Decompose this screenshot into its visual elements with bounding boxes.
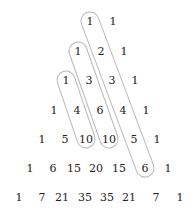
triangle-cell: 20 — [89, 163, 103, 174]
triangle-cell: 1 — [87, 16, 94, 27]
triangle-cell: 6 — [142, 163, 149, 174]
triangle-cell: 1 — [132, 75, 139, 86]
triangle-cell: 7 — [39, 192, 46, 203]
triangle-cell: 3 — [86, 75, 93, 86]
triangle-cell: 15 — [112, 163, 126, 174]
triangle-cell: 35 — [100, 192, 114, 203]
triangle-cell: 1 — [39, 134, 46, 145]
triangle-cell: 1 — [75, 46, 82, 57]
triangle-cell: 4 — [74, 105, 81, 116]
triangle-cell: 7 — [153, 192, 160, 203]
triangle-cell: 2 — [98, 46, 105, 57]
triangle-cell: 1 — [154, 134, 161, 145]
triangle-cell: 1 — [51, 105, 58, 116]
triangle-cell: 6 — [50, 163, 57, 174]
triangle-cell: 6 — [97, 105, 104, 116]
triangle-cell: 1 — [110, 16, 117, 27]
triangle-cell: 1 — [143, 105, 150, 116]
triangle-cell: 5 — [131, 134, 138, 145]
triangle-cell: 15 — [67, 163, 81, 174]
triangle-cell: 21 — [122, 192, 136, 203]
triangle-cell: 1 — [63, 75, 70, 86]
triangle-cell: 10 — [102, 134, 116, 145]
triangle-cell: 1 — [121, 46, 128, 57]
triangle-cell: 1 — [27, 163, 34, 174]
triangle-cell: 21 — [55, 192, 69, 203]
triangle-cell: 3 — [109, 75, 116, 86]
triangle-cell: 1 — [16, 192, 23, 203]
diagonal-loop — [78, 9, 156, 179]
triangle-cell: 1 — [177, 192, 184, 203]
triangle-cell: 1 — [165, 163, 172, 174]
pascal-triangle-diagram: 1112113311464115101051161520156117213535… — [0, 0, 194, 218]
triangle-cell: 5 — [62, 134, 69, 145]
triangle-cell: 35 — [78, 192, 92, 203]
triangle-cell: 4 — [120, 105, 127, 116]
triangle-cell: 10 — [79, 134, 93, 145]
